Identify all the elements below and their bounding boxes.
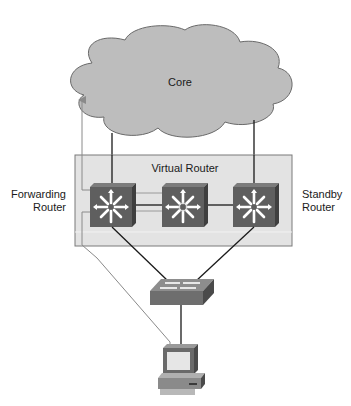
access-switch-icon xyxy=(150,279,214,305)
virtual-router-label: Virtual Router xyxy=(130,162,240,175)
standby-router-label-line2: Router xyxy=(302,201,351,214)
standby-router-icon xyxy=(233,183,279,227)
virtual-router-icon xyxy=(162,183,208,227)
standby-router-label: Standby Router xyxy=(302,188,351,214)
forwarding-router-icon xyxy=(90,183,136,227)
core-label: Core xyxy=(150,76,210,89)
standby-router-label-line1: Standby xyxy=(302,188,351,201)
forwarding-router-label-line2: Router xyxy=(4,201,66,214)
host-pc-icon xyxy=(158,344,205,395)
forwarding-router-label-line1: Forwarding xyxy=(4,188,66,201)
forwarding-router-label: Forwarding Router xyxy=(4,188,66,214)
